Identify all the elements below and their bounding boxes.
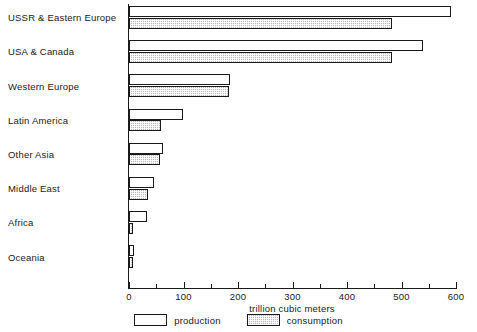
x-tick-major bbox=[402, 282, 403, 288]
legend-label-consumption: consumption bbox=[287, 315, 343, 326]
category-label: Middle East bbox=[8, 183, 60, 194]
x-tick-minor bbox=[265, 284, 266, 288]
x-tick-label: 200 bbox=[230, 291, 246, 302]
x-tick-label: 400 bbox=[339, 291, 355, 302]
legend-item-production: production bbox=[134, 314, 220, 326]
legend-item-consumption: consumption bbox=[247, 314, 343, 326]
x-tick-minor bbox=[320, 284, 321, 288]
bar-consumption bbox=[129, 18, 392, 29]
category-label: Other Asia bbox=[8, 149, 54, 160]
bar-production bbox=[129, 109, 183, 120]
bar-production bbox=[129, 245, 134, 256]
legend-label-production: production bbox=[174, 315, 220, 326]
category-label: Africa bbox=[8, 217, 33, 228]
x-tick-minor bbox=[429, 284, 430, 288]
gas-production-consumption-bar-chart: USSR & Eastern EuropeUSA & CanadaWestern… bbox=[0, 0, 477, 332]
x-tick-minor bbox=[156, 284, 157, 288]
x-axis-title: trillion cubic meters bbox=[249, 303, 335, 314]
bar-consumption bbox=[129, 52, 392, 63]
category-label: Latin America bbox=[8, 115, 68, 126]
bar-production bbox=[129, 177, 154, 188]
bar-consumption bbox=[129, 154, 160, 165]
x-tick-label: 600 bbox=[448, 291, 464, 302]
legend: production consumption bbox=[0, 314, 477, 326]
x-tick-label: 500 bbox=[393, 291, 409, 302]
x-tick-major bbox=[184, 282, 185, 288]
legend-swatch-production bbox=[134, 314, 167, 326]
x-tick-label: 300 bbox=[284, 291, 300, 302]
bar-production bbox=[129, 211, 147, 222]
x-tick-major bbox=[293, 282, 294, 288]
bar-consumption bbox=[129, 257, 133, 268]
bar-production bbox=[129, 143, 163, 154]
bar-consumption bbox=[129, 223, 133, 234]
category-label: Oceania bbox=[8, 252, 45, 263]
x-tick-label: 0 bbox=[126, 291, 131, 302]
x-tick-minor bbox=[374, 284, 375, 288]
x-axis-line bbox=[128, 288, 457, 289]
bar-production bbox=[129, 74, 230, 85]
x-tick-major bbox=[347, 282, 348, 288]
legend-swatch-consumption bbox=[247, 314, 280, 326]
x-tick-major bbox=[238, 282, 239, 288]
bar-production bbox=[129, 40, 423, 51]
bar-consumption bbox=[129, 86, 229, 97]
category-label: USSR & Eastern Europe bbox=[8, 12, 116, 23]
category-label: Western Europe bbox=[8, 81, 79, 92]
x-tick-label: 100 bbox=[175, 291, 191, 302]
bar-production bbox=[129, 6, 451, 17]
x-tick-minor bbox=[211, 284, 212, 288]
x-tick-major bbox=[456, 282, 457, 288]
x-tick-major bbox=[129, 282, 130, 288]
bar-consumption bbox=[129, 120, 161, 131]
bar-consumption bbox=[129, 189, 148, 200]
y-axis-line bbox=[128, 4, 129, 289]
category-label: USA & Canada bbox=[8, 46, 74, 57]
